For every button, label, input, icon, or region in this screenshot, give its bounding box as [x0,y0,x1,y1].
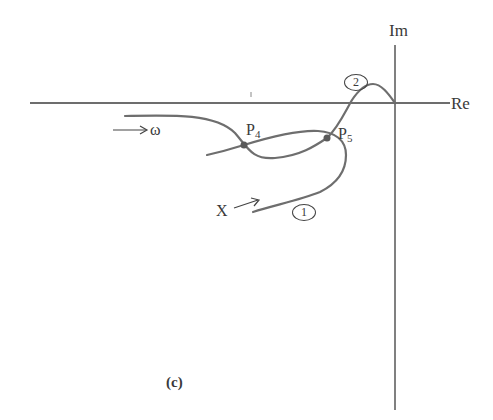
point-p4-subscript: 4 [255,128,261,140]
x-label: X [216,203,228,219]
diagram-canvas [0,0,493,420]
figure-caption: (c) [166,375,183,390]
point-p4-marker [241,142,248,149]
point-p5-marker [324,135,331,142]
imaginary-axis-label: Im [389,22,408,39]
nyquist-diagram: Im Re ω X P4 P5 1 2 (c) [0,0,493,420]
point-p4-name: P [246,121,255,138]
point-p4-label: P4 [246,122,260,140]
point-p5-label: P5 [338,126,352,144]
point-p5-name: P [338,125,347,142]
curve-1 [207,131,346,212]
curve-2-label: 2 [344,74,368,91]
x-arrow-shaft [234,200,258,208]
real-axis-label: Re [451,95,470,112]
omega-label: ω [150,122,161,138]
curve-1-label: 1 [292,204,316,221]
point-p5-subscript: 5 [347,132,353,144]
